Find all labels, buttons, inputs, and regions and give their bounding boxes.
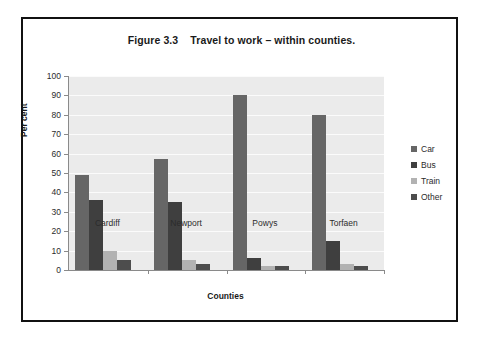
legend-item[interactable]: Other <box>411 189 442 205</box>
legend-item[interactable]: Car <box>411 141 442 157</box>
bar <box>154 159 168 270</box>
y-axis-tick <box>64 154 68 155</box>
bar <box>196 264 210 270</box>
y-axis-tick <box>64 251 68 252</box>
bar <box>340 264 354 270</box>
x-axis-tick <box>148 270 149 274</box>
figure-frame: Figure 3.3 Travel to work – within count… <box>21 17 458 322</box>
bar <box>247 258 261 270</box>
x-axis-tick <box>305 270 306 274</box>
y-axis-tick-label: 20 <box>31 227 61 236</box>
chart-legend: CarBusTrainOther <box>411 141 442 205</box>
bar <box>261 266 275 270</box>
bar <box>233 95 247 270</box>
y-axis-tick <box>64 212 68 213</box>
y-axis-tick-label: 70 <box>31 130 61 139</box>
y-axis-tick-label: 90 <box>31 91 61 100</box>
y-axis-tick-label: 0 <box>31 266 61 275</box>
bar <box>89 200 103 270</box>
bar <box>117 260 131 270</box>
legend-swatch-icon <box>411 146 417 152</box>
y-axis-tick-label: 30 <box>31 208 61 217</box>
y-axis-tick-label: 100 <box>31 72 61 81</box>
x-axis-category-label: Torfaen <box>305 219 383 228</box>
y-axis-tick-label: 40 <box>31 188 61 197</box>
legend-item[interactable]: Train <box>411 173 442 189</box>
x-axis-title: Counties <box>68 291 383 301</box>
x-axis-tick <box>227 270 228 274</box>
bar <box>103 251 117 270</box>
plot-area <box>68 76 384 271</box>
x-axis-category-label: Powys <box>226 219 304 228</box>
legend-item[interactable]: Bus <box>411 157 442 173</box>
bar-group <box>312 76 368 270</box>
y-axis-tick-label: 50 <box>31 169 61 178</box>
x-axis-category-label: Newport <box>147 219 225 228</box>
bar-group <box>75 76 131 270</box>
y-axis-tick <box>64 270 68 271</box>
y-axis-tick-label: 10 <box>31 246 61 255</box>
y-axis-tick <box>64 173 68 174</box>
y-axis-tick-label: 60 <box>31 149 61 158</box>
x-axis-tick <box>384 270 385 274</box>
legend-swatch-icon <box>411 178 417 184</box>
y-axis-tick-label: 80 <box>31 111 61 120</box>
bar <box>312 115 326 270</box>
y-axis-title: Per cent <box>19 103 29 137</box>
x-axis-category-label: Cardiff <box>68 219 146 228</box>
bar <box>326 241 340 270</box>
y-axis-tick <box>64 134 68 135</box>
legend-item-label: Train <box>421 177 440 186</box>
y-axis-tick <box>64 192 68 193</box>
bar-group <box>233 76 289 270</box>
bar <box>275 266 289 270</box>
chart-title: Figure 3.3 Travel to work – within count… <box>23 34 460 46</box>
bar <box>168 202 182 270</box>
legend-swatch-icon <box>411 162 417 168</box>
y-axis-tick <box>64 115 68 116</box>
legend-swatch-icon <box>411 194 417 200</box>
bar <box>182 260 196 270</box>
legend-item-label: Bus <box>421 161 436 170</box>
legend-item-label: Car <box>421 145 435 154</box>
y-axis-tick <box>64 95 68 96</box>
legend-item-label: Other <box>421 193 442 202</box>
y-axis-tick <box>64 231 68 232</box>
bar-group <box>154 76 210 270</box>
y-axis-tick <box>64 76 68 77</box>
bar <box>354 266 368 270</box>
